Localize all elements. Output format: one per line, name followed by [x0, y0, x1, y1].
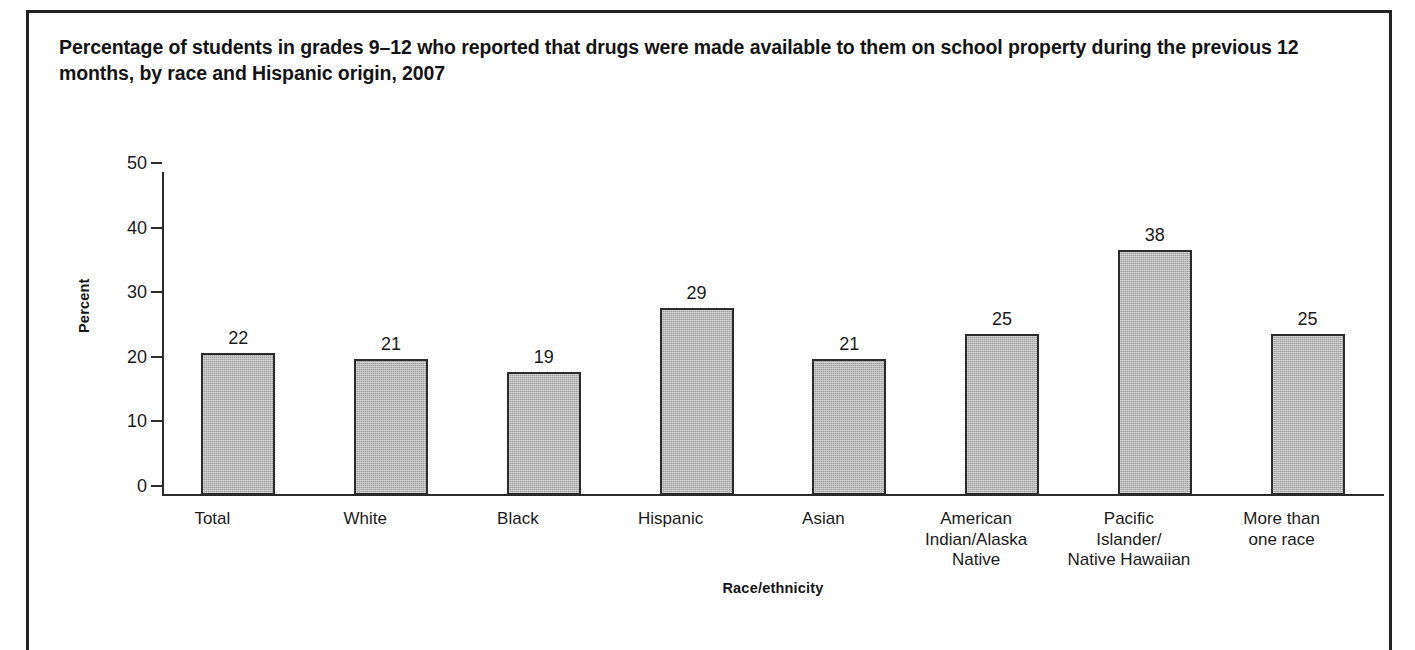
bar-value-label: 25 — [1298, 309, 1318, 330]
x-axis-category-label: Black — [438, 509, 598, 530]
x-axis-category-label-line: Islander/ — [1049, 530, 1209, 551]
bar-value-label: 19 — [534, 347, 554, 368]
bar-value-label: 38 — [1145, 225, 1165, 246]
figure-title: Percentage of students in grades 9–12 wh… — [59, 35, 1349, 87]
y-axis-tick — [151, 162, 162, 164]
figure-frame: Percentage of students in grades 9–12 wh… — [26, 10, 1392, 650]
bar-value-label: 21 — [381, 334, 401, 355]
y-axis-tick — [151, 356, 162, 358]
x-axis-category-label-line: Indian/Alaska — [896, 530, 1056, 551]
x-axis-category-label: More thanone race — [1202, 509, 1362, 550]
x-axis-category-label-line: Pacific — [1049, 509, 1209, 530]
bar: 25 — [965, 334, 1039, 496]
y-axis-tick — [151, 291, 162, 293]
bar-value-label: 22 — [228, 328, 248, 349]
y-axis-tick-label: 10 — [101, 411, 147, 432]
y-axis-tick-label: 20 — [101, 346, 147, 367]
y-axis-tick-label: 40 — [101, 217, 147, 238]
x-axis-category-label: Total — [132, 509, 292, 530]
y-axis-tick-label: 0 — [101, 476, 147, 497]
bar: 38 — [1118, 250, 1192, 495]
bar: 19 — [507, 372, 581, 495]
bar: 21 — [354, 359, 428, 495]
x-axis-category-label-line: White — [285, 509, 445, 530]
y-axis-tick — [151, 485, 162, 487]
plot-area: 2221192921253825 — [162, 172, 1384, 495]
x-axis-category-label: Asian — [743, 509, 903, 530]
x-axis-category-label-line: one race — [1202, 530, 1362, 551]
x-axis-category-label-line: Total — [132, 509, 292, 530]
x-axis-category-label: White — [285, 509, 445, 530]
bar: 22 — [201, 353, 275, 495]
bar-value-label: 25 — [992, 309, 1012, 330]
bar-value-label: 21 — [839, 334, 859, 355]
bar: 21 — [812, 359, 886, 495]
x-axis-category-label: Hispanic — [591, 509, 751, 530]
x-axis-category-label-line: Asian — [743, 509, 903, 530]
x-axis-category-label-line: Native — [896, 550, 1056, 571]
bar: 25 — [1271, 334, 1345, 496]
x-axis-category-label-line: Black — [438, 509, 598, 530]
y-axis-tick-label: 50 — [101, 153, 147, 174]
y-axis-tick-labels: 01020304050 — [91, 13, 147, 624]
y-axis-tick — [151, 420, 162, 422]
x-axis-category-label: PacificIslander/Native Hawaiian — [1049, 509, 1209, 571]
bar: 29 — [660, 308, 734, 495]
x-axis-category-label-line: Native Hawaiian — [1049, 550, 1209, 571]
x-axis-category-label-line: More than — [1202, 509, 1362, 530]
x-axis-category-label-line: American — [896, 509, 1056, 530]
y-axis-tick — [151, 227, 162, 229]
bar-value-label: 29 — [687, 283, 707, 304]
y-axis-title: Percent — [76, 278, 92, 333]
x-axis-category-label: AmericanIndian/AlaskaNative — [896, 509, 1056, 571]
x-axis-title: Race/ethnicity — [162, 580, 1384, 596]
y-axis-tick-label: 30 — [101, 282, 147, 303]
x-axis-category-label-line: Hispanic — [591, 509, 751, 530]
